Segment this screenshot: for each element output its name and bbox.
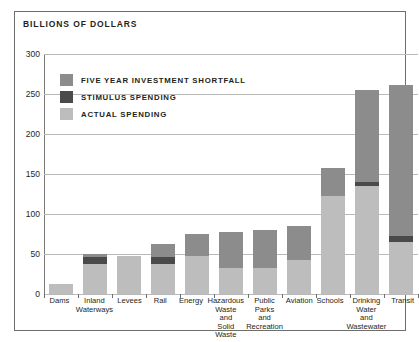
legend-label-actual: ACTUAL SPENDING — [81, 110, 167, 119]
bar-levees[interactable] — [117, 256, 141, 294]
bar-segment — [219, 268, 243, 294]
chart-title: BILLIONS OF DOLLARS — [23, 19, 137, 29]
x-axis-tick — [214, 294, 215, 298]
bar-segment — [49, 284, 73, 294]
bar-segment — [355, 90, 379, 182]
legend-swatch-stimulus — [60, 91, 73, 103]
x-axis-label: Levees — [114, 297, 145, 306]
x-axis-tick — [180, 294, 181, 298]
bar-slot — [384, 54, 418, 294]
x-axis-label: Dams — [44, 297, 75, 306]
legend-item-actual[interactable]: ACTUAL SPENDING — [60, 108, 246, 120]
x-axis-tick — [350, 294, 351, 298]
x-axis-tick — [44, 294, 45, 298]
bar-aviation[interactable] — [287, 226, 311, 294]
legend-label-shortfall: FIVE YEAR INVESTMENT SHORTFALL — [81, 76, 246, 85]
bar-hazardous-waste-and-solid-waste[interactable] — [219, 232, 243, 294]
bar-segment — [389, 242, 413, 294]
x-axis-tick — [248, 294, 249, 298]
bar-slot — [350, 54, 384, 294]
bar-segment — [321, 168, 345, 196]
x-axis-labels: DamsInlandWaterwaysLeveesRailEnergyHazar… — [44, 297, 418, 340]
x-axis-label: Energy — [176, 297, 207, 306]
legend-item-shortfall[interactable]: FIVE YEAR INVESTMENT SHORTFALL — [60, 74, 246, 86]
x-axis-label: PublicParksandRecreation — [245, 297, 284, 331]
chart-frame: BILLIONS OF DOLLARS 050100150200250300 D… — [14, 11, 406, 331]
legend-item-stimulus[interactable]: STIMULUS SPENDING — [60, 91, 246, 103]
bar-segment — [287, 260, 311, 294]
bar-segment — [83, 264, 107, 294]
x-axis-label: HazardousWasteandSolidWaste — [206, 297, 245, 340]
bar-slot — [248, 54, 282, 294]
y-axis-tick-label: 300 — [26, 49, 40, 59]
legend-swatch-actual — [60, 108, 73, 120]
y-axis-tick-label: 50 — [31, 249, 40, 259]
y-axis-tick-label: 150 — [26, 169, 40, 179]
x-axis-tick — [316, 294, 317, 298]
x-axis-label: DrinkingWaterandWastewater — [345, 297, 387, 331]
bar-segment — [117, 256, 141, 294]
x-axis-tick — [78, 294, 79, 298]
bar-segment — [253, 268, 277, 294]
bar-drinking-water-and-wastewater[interactable] — [355, 90, 379, 294]
legend-label-stimulus: STIMULUS SPENDING — [81, 93, 177, 102]
legend-swatch-shortfall — [60, 74, 73, 86]
bar-dams[interactable] — [49, 284, 73, 294]
bar-segment — [151, 244, 175, 257]
y-axis-tick-label: 100 — [26, 209, 40, 219]
x-axis-tick — [146, 294, 147, 298]
x-axis-label: Transit — [387, 297, 418, 306]
bar-schools[interactable] — [321, 168, 345, 294]
bar-rail[interactable] — [151, 244, 175, 294]
bar-segment — [219, 232, 243, 268]
bar-slot — [282, 54, 316, 294]
bar-segment — [321, 196, 345, 294]
x-axis-tick — [282, 294, 283, 298]
bar-segment — [287, 226, 311, 260]
x-axis-tick — [384, 294, 385, 298]
bar-segment — [389, 85, 413, 235]
y-axis-tick-label: 250 — [26, 89, 40, 99]
bar-transit[interactable] — [389, 85, 413, 294]
x-axis-label: Aviation — [284, 297, 315, 306]
bar-public-parks-and-recreation[interactable] — [253, 230, 277, 294]
bar-segment — [185, 256, 209, 294]
bar-segment — [185, 234, 209, 256]
y-axis-tick-label: 200 — [26, 129, 40, 139]
bar-slot — [316, 54, 350, 294]
x-axis-label: InlandWaterways — [75, 297, 114, 314]
x-axis-label: Schools — [315, 297, 346, 306]
bar-inland-waterways[interactable] — [83, 254, 107, 294]
gridline-0 — [44, 294, 418, 295]
bar-energy[interactable] — [185, 234, 209, 294]
x-axis-tick — [112, 294, 113, 298]
bar-segment — [151, 264, 175, 294]
bar-segment — [355, 186, 379, 294]
bar-segment — [253, 230, 277, 268]
x-axis-label: Rail — [145, 297, 176, 306]
chart-legend: FIVE YEAR INVESTMENT SHORTFALLSTIMULUS S… — [60, 74, 246, 125]
y-axis-tick-label: 0 — [35, 289, 40, 299]
